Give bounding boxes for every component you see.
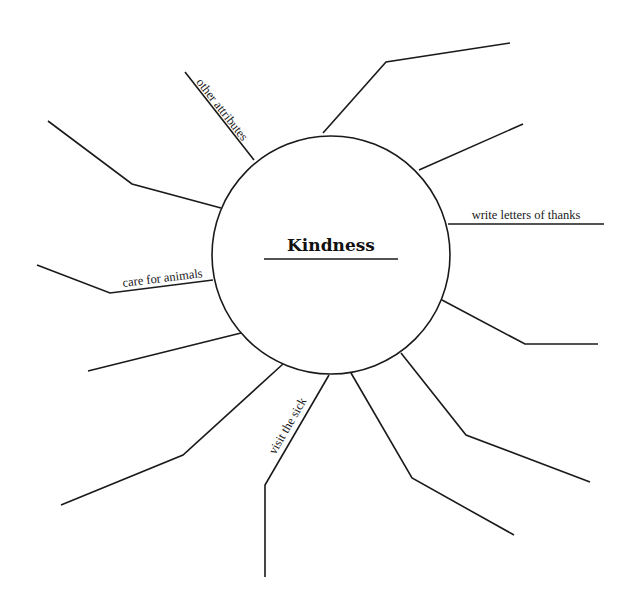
spoke-line-w-lower bbox=[88, 333, 241, 371]
spoke-line-se-upper bbox=[401, 353, 590, 482]
center-title: Kindness bbox=[287, 235, 375, 255]
spoke-line-ne-upper bbox=[323, 43, 510, 133]
spoke-line-nw bbox=[48, 121, 221, 208]
spoke-line-ne-lower bbox=[419, 124, 523, 170]
spoke-label-write-letters-of-thanks: write letters of thanks bbox=[472, 208, 581, 222]
spoke-line-sw-upper bbox=[61, 364, 283, 505]
spoke-line-e-lower bbox=[442, 300, 598, 344]
kindness-web-diagram: Kindness other attributeswrite letters o… bbox=[0, 0, 634, 615]
center-circle bbox=[212, 136, 450, 374]
spoke-line-se-lower bbox=[351, 373, 514, 535]
spoke-label-other-attributes: other attributes bbox=[193, 76, 250, 144]
